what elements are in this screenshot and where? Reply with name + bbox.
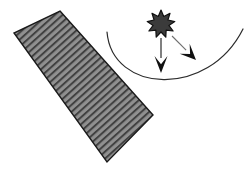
diagram-canvas [0,0,252,169]
diagram-scene [0,0,252,169]
